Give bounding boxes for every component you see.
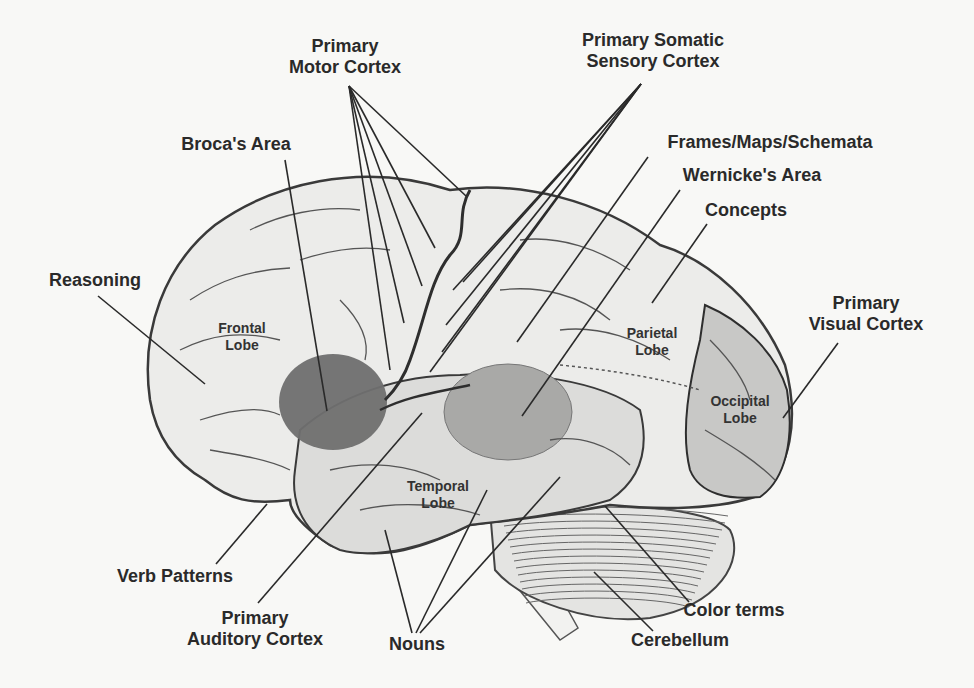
primary-somatic-sensory-cortex-label: Primary SomaticSensory Cortex xyxy=(582,30,724,72)
frontal-lobe-label-line1: Frontal xyxy=(218,320,265,337)
brocas-area-label: Broca's Area xyxy=(181,134,291,155)
broca-area-highlight xyxy=(279,354,387,450)
wernicke-area-highlight xyxy=(444,364,572,460)
temporal-lobe-label-line2: Lobe xyxy=(407,495,469,512)
primary-somatic-sensory-cortex-label-line2: Sensory Cortex xyxy=(582,51,724,72)
primary-somatic-sensory-cortex-label-line1: Primary Somatic xyxy=(582,30,724,51)
occipital-lobe-label: OccipitalLobe xyxy=(710,393,769,427)
reasoning-label: Reasoning xyxy=(49,270,141,291)
frames-maps-schemata-label: Frames/Maps/Schemata xyxy=(667,132,872,153)
nouns-label: Nouns xyxy=(389,634,445,655)
cerebellum-label-line1: Cerebellum xyxy=(631,630,729,651)
primary-motor-cortex-label: PrimaryMotor Cortex xyxy=(289,36,401,78)
primary-motor-cortex-label-line1: Primary xyxy=(289,36,401,57)
wernickes-area-label: Wernicke's Area xyxy=(683,165,821,186)
verb-patterns-label-line1: Verb Patterns xyxy=(117,566,233,587)
temporal-lobe-label-line1: Temporal xyxy=(407,478,469,495)
wernickes-area-label-line1: Wernicke's Area xyxy=(683,165,821,186)
parietal-lobe-label-line1: Parietal xyxy=(627,325,678,342)
temporal-lobe-label: TemporalLobe xyxy=(407,478,469,512)
primary-visual-cortex-label-line2: Visual Cortex xyxy=(809,314,924,335)
primary-auditory-cortex-label-line1: Primary xyxy=(187,608,323,629)
reasoning-label-line1: Reasoning xyxy=(49,270,141,291)
frontal-lobe-label: FrontalLobe xyxy=(218,320,265,354)
frontal-lobe-label-line2: Lobe xyxy=(218,337,265,354)
frames-maps-schemata-label-line1: Frames/Maps/Schemata xyxy=(667,132,872,153)
parietal-lobe-label: ParietalLobe xyxy=(627,325,678,359)
occipital-lobe-label-line2: Lobe xyxy=(710,410,769,427)
primary-visual-cortex-label-line1: Primary xyxy=(809,293,924,314)
primary-visual-cortex-label: PrimaryVisual Cortex xyxy=(809,293,924,335)
primary-motor-cortex-label-line2: Motor Cortex xyxy=(289,57,401,78)
nouns-label-line1: Nouns xyxy=(389,634,445,655)
concepts-label-line1: Concepts xyxy=(705,200,787,221)
primary-auditory-cortex-label-line2: Auditory Cortex xyxy=(187,629,323,650)
parietal-lobe-label-line2: Lobe xyxy=(627,342,678,359)
color-terms-label: Color terms xyxy=(683,600,784,621)
concepts-label: Concepts xyxy=(705,200,787,221)
leader-line-primary-visual-cortex xyxy=(783,343,838,418)
brain-language-diagram: PrimaryMotor CortexPrimary SomaticSensor… xyxy=(0,0,974,688)
color-terms-label-line1: Color terms xyxy=(683,600,784,621)
occipital-lobe-label-line1: Occipital xyxy=(710,393,769,410)
cerebellum-label: Cerebellum xyxy=(631,630,729,651)
leader-line-verb-patterns xyxy=(216,504,267,564)
verb-patterns-label: Verb Patterns xyxy=(117,566,233,587)
primary-auditory-cortex-label: PrimaryAuditory Cortex xyxy=(187,608,323,650)
brocas-area-label-line1: Broca's Area xyxy=(181,134,291,155)
